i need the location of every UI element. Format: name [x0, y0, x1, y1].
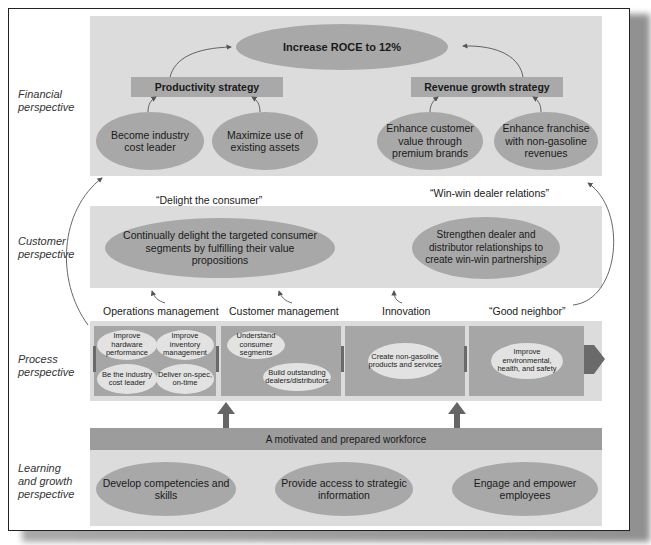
objective-environmental-safety: Improve environmental, health, and safet…: [491, 343, 563, 379]
process-divider: [341, 346, 344, 372]
objective-non-gasoline-revenues: Enhance franchise with non-gasoline reve…: [494, 112, 598, 170]
workforce-bar: A motivated and prepared workforce: [90, 428, 602, 450]
objective-maximize-assets: Maximize use of existing assets: [212, 112, 318, 170]
revenue-strategy-box: Revenue growth strategy: [411, 77, 563, 97]
process-divider: [464, 346, 467, 372]
objective-inventory-management: Improve inventory management: [156, 330, 214, 360]
process-header-innovation: Innovation: [382, 305, 430, 317]
process-divider: [93, 346, 96, 372]
objective-industry-cost-leader: Be the industry cost leader: [97, 364, 157, 394]
process-divider: [216, 346, 219, 372]
objective-understand-segments: Understand consumer segments: [227, 331, 285, 359]
objective-engage-employees: Engage and empower employees: [452, 462, 598, 516]
goal-increase-roce: Increase ROCE to 12%: [236, 24, 448, 70]
objective-strategic-information: Provide access to strategic information: [275, 462, 413, 516]
objective-deliver-on-spec: Deliver on-spec, on-time: [156, 364, 214, 394]
financial-perspective-label: Financial perspective: [18, 88, 74, 114]
learning-perspective-label: Learning and growth perspective: [18, 462, 74, 501]
objective-cost-leader: Become industry cost leader: [96, 112, 204, 170]
customer-perspective-label: Customer perspective: [18, 235, 74, 261]
objective-customer-value: Enhance customer value through premium b…: [377, 112, 483, 170]
productivity-strategy-box: Productivity strategy: [131, 77, 283, 97]
objective-build-dealers: Build outstanding dealers/distributors: [263, 363, 331, 391]
objective-hardware-performance: Improve hardware performance: [97, 330, 157, 360]
objective-non-gasoline-products: Create non-gasoline products and service…: [368, 343, 442, 379]
objective-dealer-relationships: Strengthen dealer and distributor relati…: [412, 217, 560, 279]
objective-delight-consumer: Continually delight the targeted consume…: [105, 218, 335, 278]
process-header-customer: Customer management: [229, 305, 339, 317]
objective-competencies: Develop competencies and skills: [96, 462, 236, 516]
process-perspective-label: Process perspective: [18, 353, 74, 379]
theme-win-win-dealer: “Win-win dealer relations”: [430, 187, 549, 199]
process-header-good-neighbor: “Good neighbor”: [489, 305, 565, 317]
theme-delight-consumer: “Delight the consumer”: [156, 194, 262, 206]
process-header-operations: Operations management: [103, 305, 219, 317]
